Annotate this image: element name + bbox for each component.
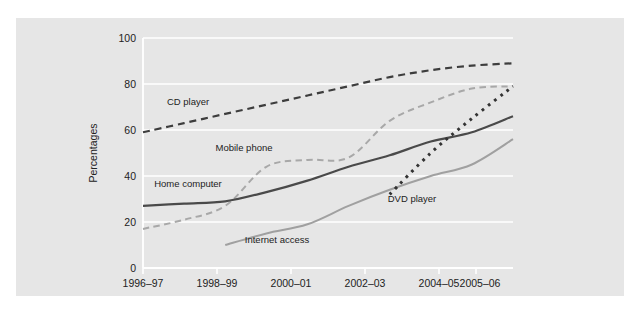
figure-container: 0 20 40 60 80 100 1996–97 1998–99 2000–0…	[0, 0, 638, 318]
series-label-dvd-player: DVD player	[388, 193, 437, 204]
y-tick-labels: 0 20 40 60 80 100	[118, 32, 136, 274]
series-label-home-computer: Home computer	[154, 178, 222, 189]
line-chart: 0 20 40 60 80 100 1996–97 1998–99 2000–0…	[0, 0, 638, 318]
x-tick-1998-99: 1998–99	[197, 277, 238, 289]
x-tick-2000-01: 2000–01	[271, 277, 312, 289]
x-tick-2002-03: 2002–03	[345, 277, 386, 289]
series-line-dvd-player	[390, 86, 513, 194]
y-tick-80: 80	[124, 78, 136, 90]
y-tick-20: 20	[124, 216, 136, 228]
x-tick-2004-05: 2004–05	[419, 277, 460, 289]
series-label-mobile-phone: Mobile phone	[215, 142, 272, 153]
y-tick-40: 40	[124, 170, 136, 182]
y-tick-0: 0	[130, 262, 136, 274]
series-line-mobile-phone	[143, 86, 513, 229]
x-tick-1996-97: 1996–97	[123, 277, 164, 289]
x-tick-labels: 1996–97 1998–99 2000–01 2002–03 2004–05 …	[123, 277, 501, 289]
y-tick-100: 100	[118, 32, 136, 44]
series-layer	[143, 63, 513, 245]
gridlines	[143, 38, 513, 268]
series-label-internet-access: Internet access	[245, 234, 310, 245]
y-axis-title: Percentages	[87, 124, 99, 183]
series-label-cd-player: CD player	[167, 96, 209, 107]
y-tick-60: 60	[124, 124, 136, 136]
x-tick-2005-06: 2005–06	[460, 277, 501, 289]
